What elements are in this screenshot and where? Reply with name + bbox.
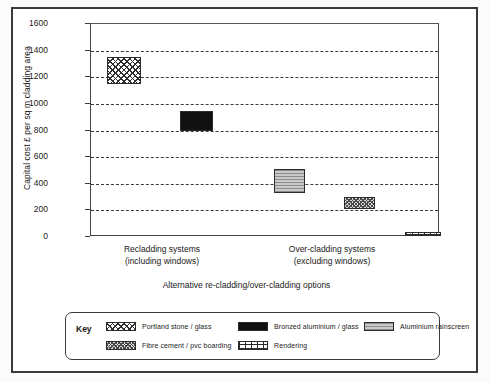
y-tick-label: 1000 [2,99,48,108]
y-tick-label: 1200 [2,72,48,81]
legend-swatch-icon [106,322,136,331]
y-tick-label: 0 [2,232,48,241]
legend-item-label: Rendering [274,342,307,349]
legend-item: Aluminium rainscreen [364,322,469,331]
bar-fibre-cement-pvc-boarding [344,197,375,209]
x-category-line2: (excluding windows) [247,255,417,267]
y-tick-label: 200 [2,205,48,214]
legend-item: Bronzed aluminium / glass [238,322,359,331]
gridlines [91,24,438,235]
bar-portland-stone-glass [107,57,141,84]
legend-swatch-icon [364,322,394,331]
y-tick-label: 400 [2,179,48,188]
legend-item-label: Fibre cement / pvc boarding [142,342,231,349]
y-tick-label: 1400 [2,46,48,55]
gridline [91,77,438,78]
legend-item-label: Aluminium rainscreen [400,323,469,330]
plot-wrapper: Capital cost £ per sq m cladding area 16… [13,9,480,309]
y-tick-label: 1600 [2,19,48,28]
legend-title: Key [76,324,92,334]
y-tick-mark [85,236,90,237]
gridline [91,131,438,132]
gridline [91,157,438,158]
legend-swatch-icon [238,322,268,331]
legend-swatch-icon [238,341,268,350]
x-category-line2: (including windows) [77,255,247,267]
x-category-label-1: Over-cladding systems (excluding windows… [247,243,417,267]
legend-item: Rendering [238,341,307,350]
y-tick-label: 600 [2,152,48,161]
plot-area [90,23,439,236]
legend-item: Portland stone / glass [106,322,212,331]
figure-frame: Capital cost £ per sq m cladding area 16… [11,7,478,373]
legend-item-label: Portland stone / glass [142,323,212,330]
gridline [91,210,438,211]
x-category-line1: Over-cladding systems [247,243,417,255]
legend-item-label: Bronzed aluminium / glass [274,323,359,330]
legend-swatch-icon [106,341,136,350]
gridline [91,184,438,185]
x-category-label-0: Recladding systems (including windows) [77,243,247,267]
legend-box: Key Portland stone / glassBronzed alumin… [65,312,440,360]
gridline [91,104,438,105]
chart-figure: Capital cost £ per sq m cladding area 16… [0,0,490,382]
y-tick-label: 800 [2,126,48,135]
legend-item: Fibre cement / pvc boarding [106,341,231,350]
bar-rendering [405,232,441,236]
bar-bronzed-aluminium-glass [180,111,213,131]
x-category-line1: Recladding systems [77,243,247,255]
bar-aluminium-rainscreen [274,169,305,193]
x-axis-title: Alternative re-cladding/over-cladding op… [13,280,480,290]
gridline [91,51,438,52]
